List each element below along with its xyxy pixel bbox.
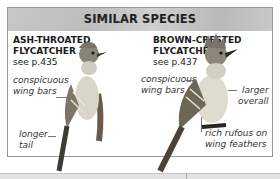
column-divider [186,173,187,179]
ash-throated-flycatcher-illustration [43,36,113,176]
next-section-strip [0,173,280,179]
header-band: SIMILAR SPECIES [8,8,272,31]
similar-species-panel: SIMILAR SPECIES ASH-THROATED FLYCATCHER … [7,7,273,157]
panel-title: SIMILAR SPECIES [8,12,272,26]
brown-crested-flycatcher-illustration [146,33,246,173]
